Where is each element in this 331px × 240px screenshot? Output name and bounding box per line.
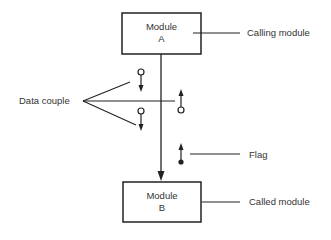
data-couple-down-icon [138, 108, 144, 131]
module-a-title: Module [122, 21, 201, 33]
data-couple-up-icon [178, 89, 184, 113]
data-couple-label: Data couple [19, 95, 70, 106]
module-a-id: A [122, 33, 201, 45]
data-couple-pointer-top [83, 82, 130, 101]
flag-up-icon [178, 143, 183, 165]
flag-label: Flag [249, 149, 267, 160]
call-arrowhead-icon [158, 171, 165, 181]
called-module-label: Called module [249, 196, 310, 207]
calling-module-label: Calling module [247, 27, 310, 38]
data-couple-pointer-bottom [83, 101, 136, 125]
module-b-title: Module [123, 190, 201, 202]
data-couple-down-icon [138, 69, 144, 92]
module-a-label: Module A [122, 21, 201, 45]
module-b-id: B [123, 202, 201, 214]
module-b-label: Module B [123, 190, 201, 214]
